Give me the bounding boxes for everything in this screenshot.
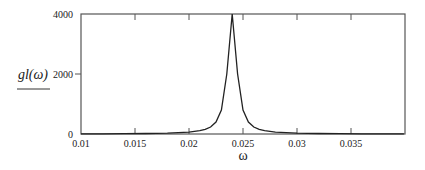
chart: 0.010.0150.020.0250.030.035 020004000 ω …	[0, 0, 425, 170]
x-tick-label: 0.035	[340, 138, 363, 149]
x-tick-label: 0.03	[288, 138, 306, 149]
tick-marks	[75, 14, 351, 134]
x-tick-label: 0.01	[72, 138, 90, 149]
y-tick-label: 0	[68, 129, 73, 140]
y-axis-label: gl(ω)	[18, 67, 48, 83]
x-axis-label: ω	[238, 148, 247, 163]
x-tick-label: 0.015	[124, 138, 147, 149]
y-tick-label: 4000	[53, 9, 73, 20]
y-tick-labels: 020004000	[53, 9, 73, 140]
x-tick-labels: 0.010.0150.020.0250.030.035	[72, 138, 362, 149]
x-tick-label: 0.02	[180, 138, 198, 149]
plot-frame	[81, 14, 405, 134]
y-tick-label: 2000	[53, 69, 73, 80]
data-line	[81, 14, 404, 134]
